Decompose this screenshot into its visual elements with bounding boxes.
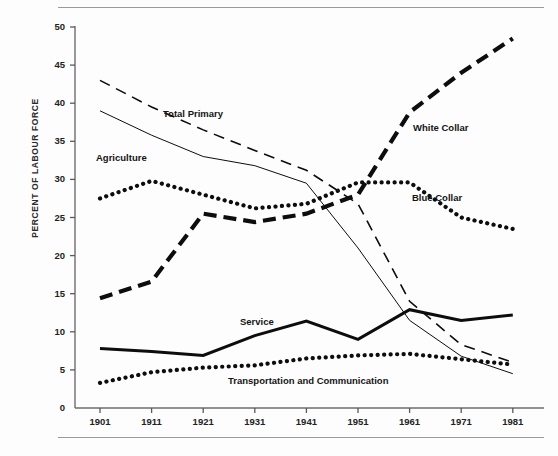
- series-group: [100, 38, 513, 382]
- x-tick-label: 1981: [493, 416, 533, 427]
- series-label-transportation-and-communication: Transportation and Communication: [228, 375, 388, 386]
- y-tick-label: 50: [41, 21, 65, 32]
- series-label-service: Service: [240, 316, 274, 327]
- series-line-white-collar: [100, 38, 513, 298]
- y-tick-label: 15: [41, 288, 65, 299]
- y-tick-label: 40: [41, 97, 65, 108]
- series-label-blue-collar: Blue Collar: [412, 192, 462, 203]
- x-tick-label: 1951: [338, 416, 378, 427]
- x-tick-label: 1961: [390, 416, 430, 427]
- x-tick-label: 1911: [132, 416, 172, 427]
- x-tick-label: 1941: [286, 416, 326, 427]
- series-label-white-collar: White Collar: [413, 122, 468, 133]
- y-tick-label: 35: [41, 135, 65, 146]
- figure-container: PERCENT OF LABOUR FORCE 0510152025303540…: [0, 0, 558, 456]
- series-line-agriculture: [100, 111, 513, 374]
- y-tick-label: 20: [41, 250, 65, 261]
- series-line-blue-collar: [100, 181, 513, 229]
- x-tick-label: 1921: [183, 416, 223, 427]
- x-tick-label: 1971: [441, 416, 481, 427]
- y-tick-label: 25: [41, 212, 65, 223]
- y-tick-label: 10: [41, 326, 65, 337]
- y-tick-label: 5: [41, 364, 65, 375]
- y-tick-label: 0: [41, 402, 65, 413]
- y-tick-label: 30: [41, 173, 65, 184]
- x-tick-label: 1901: [80, 416, 120, 427]
- x-tick-label: 1931: [235, 416, 275, 427]
- chart-plot-area: [0, 0, 558, 456]
- series-label-agriculture: Agriculture: [96, 152, 147, 163]
- y-tick-label: 45: [41, 59, 65, 70]
- series-label-total-primary: Total Primary: [163, 108, 223, 119]
